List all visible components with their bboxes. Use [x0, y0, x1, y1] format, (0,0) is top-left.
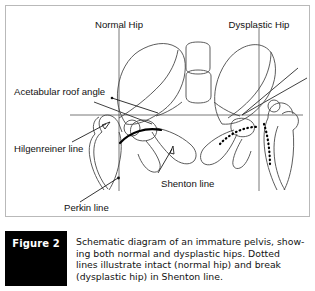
- pubic-ramus-right: [201, 130, 237, 165]
- caption-line-1: Schematic diagram of an immature pelvis,…: [76, 236, 308, 248]
- femoral-neck-left: [99, 115, 122, 132]
- pubic-ramus-left: [152, 128, 196, 164]
- label-shenton-line: Shenton line: [161, 178, 214, 189]
- label-hilgenreiner-line: Hilgenreiner line: [14, 143, 83, 154]
- label-acetabular-roof-angle: Acetabular roof angle: [14, 86, 105, 97]
- iliac-inner-border-right: [228, 52, 271, 118]
- acetabular-roof-angle-normal-graphic: [94, 102, 152, 124]
- greater-trochanter-right: [268, 103, 293, 118]
- label-normal-hip: Normal Hip: [95, 19, 143, 30]
- shenton-line-dysplastic-broken-medial: [220, 127, 259, 144]
- caption-line-4: (dysplastic hip) in Shenton line.: [76, 271, 308, 283]
- caption-line-2: ing both normal and dysplastic hips. Dot…: [76, 248, 308, 260]
- femoral-shaft-left-inner: [109, 132, 121, 190]
- ischium-left: [138, 141, 160, 172]
- pelvis-schematic-diagram: Normal Hip Dysplastic Hip Acetabular roo…: [6, 6, 309, 216]
- femoral-neck-right: [282, 112, 298, 130]
- leader-dot-perkin-line: [117, 177, 120, 180]
- figure-number-tag: Figure 2: [5, 231, 67, 286]
- diagram-panel: Normal Hip Dysplastic Hip Acetabular roo…: [5, 5, 310, 217]
- label-dysplastic-hip: Dysplastic Hip: [229, 19, 290, 30]
- femoral-shaft-left-medial: [94, 132, 108, 189]
- sacral-body-lower: [186, 70, 211, 103]
- iliac-inner-border-left: [119, 50, 178, 118]
- leader-arrow-shenton: [170, 146, 174, 154]
- sacral-ala-left: [156, 102, 182, 116]
- femoral-shaft-right-inner: [284, 130, 294, 190]
- figure-container: Normal Hip Dysplastic Hip Acetabular roo…: [0, 0, 315, 291]
- figure-caption-row: Figure 2 Schematic diagram of an immatur…: [5, 231, 310, 286]
- sacral-body-upper: [186, 42, 210, 74]
- leader-perkin-line: [80, 178, 118, 202]
- femoral-shaft-left-lateral: [89, 134, 104, 190]
- femoral-shaft-right-medial: [274, 126, 285, 190]
- ischium-right: [233, 139, 251, 169]
- acetabular-roof-angle-dysplastic-graphic: [242, 78, 307, 115]
- greater-trochanter-left: [93, 117, 99, 134]
- label-perkin-line: Perkin line: [64, 202, 109, 213]
- sacral-ala-right: [214, 102, 240, 116]
- leader-dot-acetabular-roof-angle: [111, 97, 114, 100]
- caption-line-3: lines illustrate intact (normal hip) and…: [76, 259, 308, 271]
- figure-caption-text: Schematic diagram of an immature pelvis,…: [67, 231, 310, 286]
